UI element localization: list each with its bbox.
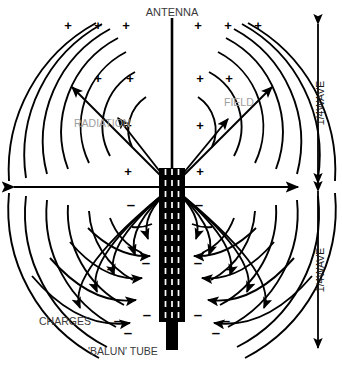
charge-plus: + bbox=[196, 71, 204, 86]
charge-plus: + bbox=[122, 18, 130, 33]
label-quarter-wave-lower: 1/4WAVE bbox=[314, 248, 326, 292]
charge-plus: + bbox=[94, 18, 102, 33]
label-quarter-wave-upper: 1/4WAVE bbox=[314, 81, 326, 125]
charge-minus: – bbox=[107, 260, 115, 277]
charge-minus: – bbox=[194, 254, 202, 271]
balun-tube bbox=[159, 168, 185, 322]
charge-minus: – bbox=[195, 196, 203, 213]
field-arrow-upper-right-outer bbox=[172, 87, 272, 187]
charge-minus: – bbox=[194, 306, 202, 323]
charge-plus: + bbox=[225, 71, 233, 86]
charge-plus: + bbox=[196, 164, 204, 179]
label-field: FIELD bbox=[224, 96, 254, 108]
antenna-diagram-canvas: + + + + + + + + + + + + + + – – – – – – … bbox=[0, 0, 342, 370]
feed-stub bbox=[166, 322, 178, 350]
charge-plus: + bbox=[254, 18, 262, 33]
antenna-diagram: + + + + + + + + + + + + + + – – – – – – … bbox=[0, 0, 342, 370]
charge-arrow-l5 bbox=[78, 187, 172, 308]
charge-plus: + bbox=[64, 18, 72, 33]
charge-plus: + bbox=[126, 71, 134, 86]
charge-minus: – bbox=[124, 324, 132, 341]
charge-minus: – bbox=[226, 260, 234, 277]
charge-minus: – bbox=[222, 312, 230, 329]
charge-plus: + bbox=[194, 18, 202, 33]
charge-plus: + bbox=[224, 18, 232, 33]
label-balun-tube: 'BALUN' TUBE bbox=[88, 345, 158, 357]
charge-minus: – bbox=[212, 324, 220, 341]
field-arrow-upper-left-outer bbox=[72, 87, 172, 187]
arcs-upper-left bbox=[9, 23, 146, 181]
charge-minus: – bbox=[114, 312, 122, 329]
radial-field-arrows-lower-left bbox=[78, 187, 172, 308]
label-charges: CHARGES bbox=[39, 315, 91, 327]
charge-plus: + bbox=[196, 118, 204, 133]
label-radiation: RADIATION bbox=[74, 117, 130, 129]
charge-minus: – bbox=[143, 306, 151, 323]
label-antenna: ANTENNA bbox=[146, 6, 199, 18]
charge-minus: – bbox=[142, 254, 150, 271]
charge-minus: – bbox=[127, 196, 135, 213]
charge-plus: + bbox=[94, 71, 102, 86]
charge-arrow-r5 bbox=[172, 187, 266, 308]
charge-plus: + bbox=[124, 164, 132, 179]
radial-field-arrows-lower-right bbox=[172, 187, 266, 308]
